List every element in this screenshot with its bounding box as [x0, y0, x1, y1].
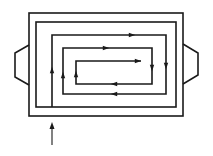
inlet-arrowhead-icon [50, 122, 55, 129]
right-tab [183, 44, 198, 84]
flow-arrow-right-icon [129, 33, 135, 37]
spiral-flow-path [52, 35, 166, 107]
spiral-flow-diagram [0, 0, 213, 156]
flow-arrow-left-icon [111, 92, 117, 96]
flow-arrowheads [50, 33, 168, 96]
flow-arrow-down-icon [164, 63, 168, 69]
flow-arrow-up-icon [50, 67, 54, 73]
flow-arrow-down-icon [150, 65, 154, 71]
flow-arrow-left-icon [111, 82, 117, 86]
flow-arrow-right-icon [135, 59, 141, 63]
flow-arrow-up-icon [61, 72, 65, 78]
flow-arrow-right-icon [103, 46, 109, 50]
left-tab [15, 45, 29, 85]
flow-arrow-up-icon [74, 71, 78, 77]
